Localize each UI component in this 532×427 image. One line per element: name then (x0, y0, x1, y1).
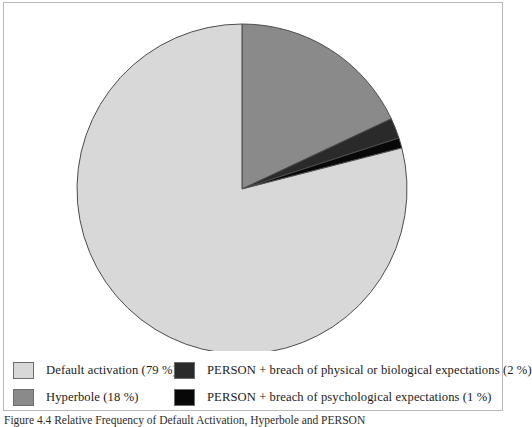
legend-swatch-icon (13, 389, 34, 406)
figure-caption: Figure 4.4 Relative Frequency of Default… (4, 414, 502, 427)
legend-item-label: Default activation (79 %) (46, 363, 177, 377)
legend-swatch-icon (174, 362, 195, 379)
legend-item-person-physical[interactable]: PERSON + breach of physical or biologica… (174, 357, 532, 383)
legend-item-label: PERSON + breach of psychological expecta… (207, 390, 492, 404)
legend-item-default-activation[interactable]: Default activation (79 %) (13, 357, 177, 383)
legend-swatch-icon (13, 362, 34, 379)
legend-row: Hyperbole (18 %) PERSON + breach of psyc… (4, 384, 504, 410)
legend-item-label: Hyperbole (18 %) (46, 390, 139, 404)
legend-item-hyperbole[interactable]: Hyperbole (18 %) (13, 384, 139, 410)
pie-chart-svg (4, 3, 504, 351)
pie-chart (4, 3, 504, 351)
legend-swatch-icon (174, 389, 195, 406)
legend-item-person-psychological[interactable]: PERSON + breach of psychological expecta… (174, 384, 492, 410)
chart-legend: Default activation (79 %) PERSON + breac… (4, 353, 504, 411)
figure-frame: Default activation (79 %) PERSON + breac… (3, 2, 503, 411)
legend-row: Default activation (79 %) PERSON + breac… (4, 357, 504, 383)
legend-item-label: PERSON + breach of physical or biologica… (207, 363, 532, 377)
